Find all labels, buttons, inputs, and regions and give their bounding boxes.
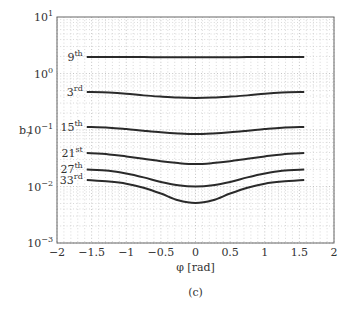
y-tick-label: 10−2 (27, 179, 53, 194)
x-tick-label: −0.5 (148, 246, 175, 259)
x-tick-label: 1.5 (291, 246, 309, 259)
y-tick-base: 10 (34, 11, 48, 24)
y-tick-base: 10 (27, 237, 41, 250)
curve-label-suffix: th (74, 161, 82, 170)
x-tick-label: 2 (331, 246, 338, 259)
x-axis-label: φ [rad] (176, 261, 215, 274)
chart: −2−1.5−1−0.500.511.52 10110010−110−210−3… (0, 0, 356, 311)
y-tick-exponent: −3 (41, 235, 53, 244)
curve-label-15th: 15th (60, 119, 82, 134)
curve-label-suffix: th (74, 49, 82, 58)
curve-labels: 9th3rd15th21st27th33rd (60, 49, 84, 187)
x-tick-label: −1 (118, 246, 134, 259)
x-tick-label: −2 (49, 246, 65, 259)
y-axis-label-main: b (19, 124, 26, 137)
curve-label-suffix: st (75, 145, 83, 154)
y-tick-label: 101 (34, 9, 53, 24)
figure-caption: (c) (188, 286, 203, 299)
curve-label-33rd: 33rd (60, 172, 83, 187)
curve-label-number: 3 (67, 86, 74, 99)
y-tick-exponent: 0 (48, 66, 53, 75)
y-axis-label-subscript: 7 (26, 130, 31, 139)
x-tick-label: 1 (261, 246, 268, 259)
x-tick-labels: −2−1.5−1−0.500.511.52 (49, 246, 338, 259)
x-tick-label: 0.5 (221, 246, 239, 259)
y-tick-exponent: 1 (48, 9, 53, 18)
curve-label-number: 15 (60, 121, 74, 134)
y-tick-base: 10 (34, 68, 48, 81)
curve-label-suffix: rd (74, 84, 83, 93)
curve-label-9th: 9th (67, 49, 82, 64)
y-tick-exponent: −2 (41, 179, 53, 188)
grid (57, 17, 334, 243)
curve-label-number: 9 (67, 51, 74, 64)
curve-label-number: 33 (60, 174, 74, 187)
curve-label-suffix: th (74, 119, 82, 128)
y-tick-label: 100 (34, 66, 53, 81)
x-tick-label: −1.5 (78, 246, 105, 259)
curve-label-number: 21 (61, 147, 75, 160)
y-tick-exponent: −1 (41, 122, 53, 131)
x-tick-label: 0 (192, 246, 199, 259)
curve-label-3rd: 3rd (67, 84, 83, 99)
y-tick-base: 10 (27, 181, 41, 194)
curve-label-21st: 21st (61, 145, 83, 160)
curve-label-suffix: rd (74, 172, 83, 181)
